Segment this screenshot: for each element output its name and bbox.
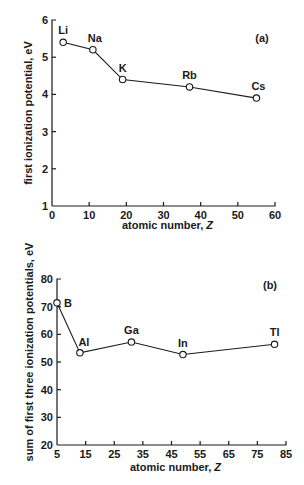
x-tick-label: 60: [269, 209, 281, 221]
y-tick-label: 3: [42, 126, 48, 138]
x-axis-label: atomic number, Z: [130, 461, 222, 473]
y-axis: [52, 20, 56, 206]
y-ticks: 123456: [42, 14, 56, 212]
data-points: LiNaKRbCs: [58, 24, 265, 101]
x-tick-label: 75: [251, 448, 263, 460]
point-label: Li: [58, 24, 68, 36]
point-label: Ga: [124, 324, 140, 336]
x-tick-label: 45: [165, 448, 177, 460]
point-label: In: [178, 337, 188, 349]
x-tick-label: 5: [54, 448, 60, 460]
point-label: Tl: [270, 326, 280, 338]
x-tick-label: 85: [280, 448, 292, 460]
figure: 123456 0102030405060 atomic number, Z fi…: [0, 0, 304, 485]
x-tick-label: 15: [80, 448, 92, 460]
y-axis-label: first ionization potential, eV: [22, 41, 34, 185]
x-tick-label: 25: [108, 448, 120, 460]
open-circle-marker-icon: [60, 39, 66, 45]
y-tick-label: 5: [42, 51, 48, 63]
y-tick-label: 20: [41, 439, 53, 451]
y-tick-label: 4: [42, 88, 49, 100]
data-points: BAlGaInTl: [54, 297, 280, 358]
data-line: [57, 303, 275, 355]
data-point-rb: Rb: [182, 69, 197, 90]
y-tick-label: 30: [41, 411, 53, 423]
chart-panel-a: 123456 0102030405060 atomic number, Z fi…: [22, 14, 281, 231]
point-label: K: [119, 62, 127, 74]
y-tick-label: 60: [41, 328, 53, 340]
y-axis-label: sum of first three ionization potentials…: [23, 242, 35, 461]
y-tick-label: 6: [42, 14, 48, 26]
data-point-tl: Tl: [270, 326, 280, 347]
y-tick-label: 1: [42, 200, 48, 212]
open-circle-marker-icon: [128, 339, 134, 345]
x-ticks: 51525354555657585: [54, 441, 292, 460]
point-label: B: [64, 297, 72, 309]
y-tick-label: 70: [41, 301, 53, 313]
y-tick-label: 80: [41, 273, 53, 285]
data-point-k: K: [119, 62, 127, 83]
panel-label: (a): [255, 32, 269, 44]
open-circle-marker-icon: [54, 300, 60, 306]
open-circle-marker-icon: [77, 350, 83, 356]
x-tick-label: 50: [232, 209, 244, 221]
chart-panel-b: 20304050607080 51525354555657585 atomic …: [23, 242, 292, 473]
open-circle-marker-icon: [253, 95, 259, 101]
x-tick-label: 55: [194, 448, 206, 460]
x-tick-label: 65: [223, 448, 235, 460]
point-label: Cs: [251, 80, 265, 92]
open-circle-marker-icon: [90, 47, 96, 53]
x-tick-label: 0: [49, 209, 55, 221]
open-circle-marker-icon: [180, 351, 186, 357]
data-point-na: Na: [88, 32, 103, 53]
y-tick-label: 2: [42, 163, 48, 175]
panel-label: (b): [263, 279, 277, 291]
x-tick-label: 35: [137, 448, 149, 460]
x-tick-label: 10: [83, 209, 95, 221]
y-tick-label: 40: [41, 384, 53, 396]
data-point-ga: Ga: [124, 324, 140, 345]
data-point-in: In: [178, 337, 188, 358]
data-point-li: Li: [58, 24, 68, 45]
data-point-cs: Cs: [251, 80, 265, 101]
x-axis-label: atomic number, Z: [122, 219, 214, 231]
data-point-al: Al: [77, 336, 90, 356]
point-label: Rb: [182, 69, 197, 81]
open-circle-marker-icon: [271, 341, 277, 347]
y-tick-label: 50: [41, 356, 53, 368]
open-circle-marker-icon: [186, 84, 192, 90]
point-label: Na: [88, 32, 103, 44]
point-label: Al: [78, 336, 89, 348]
open-circle-marker-icon: [119, 76, 125, 82]
